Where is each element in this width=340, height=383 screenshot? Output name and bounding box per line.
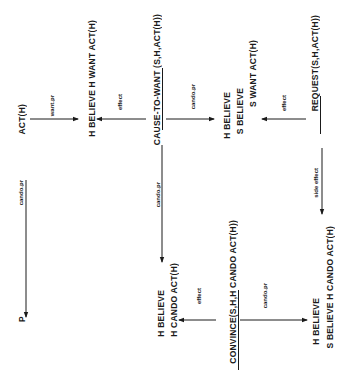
node-request: REQUEST(S,H,ACT(H)) <box>310 15 320 111</box>
node-s-want-act: S WANT ACT(H) <box>248 40 258 107</box>
label-cando-pr-left: cando.pr <box>18 180 25 205</box>
label-cando-pr-mid: cando.pr <box>155 182 162 207</box>
label-effect-2: effect <box>281 95 288 111</box>
request-underline <box>320 96 321 134</box>
label-effect-3: effect <box>196 288 203 304</box>
node-p: P <box>17 316 27 322</box>
label-cando-pr-1: cando.pr <box>190 84 197 109</box>
label-want-pr: want.pr <box>49 95 56 116</box>
label-effect-1: effect <box>117 94 124 110</box>
node-h-believe-3: H BELIEVE <box>311 298 321 345</box>
label-cando-pr-bottom: cando.pr <box>262 283 269 308</box>
convince-underline <box>238 290 239 370</box>
node-act-h: ACT(H) <box>17 104 27 134</box>
node-h-cando-act: H CANDO ACT(H) <box>169 263 179 337</box>
node-h-believe-h-want: H BELIEVE H WANT ACT(H) <box>87 20 97 137</box>
cause-to-want-underline <box>162 68 163 130</box>
node-cause-to-want: CAUSE-TO-WANT (S,H,ACT(H)) <box>152 14 162 145</box>
label-side-effect: side effect <box>313 168 320 198</box>
node-s-believe-1: S BELIEVE <box>235 88 245 134</box>
node-h-believe-1: H BELIEVE <box>222 92 232 139</box>
node-s-believe-h-cando: S BELIEVE H CANDO ACT(H) <box>325 226 335 349</box>
plan-inference-diagram: ACT(H) H BELIEVE H WANT ACT(H) CAUSE-TO-… <box>0 0 340 383</box>
node-convince: CONVINCE(S,H,H CANDO ACT(H)) <box>228 220 238 364</box>
node-h-believe-2: H BELIEVE <box>156 290 166 337</box>
